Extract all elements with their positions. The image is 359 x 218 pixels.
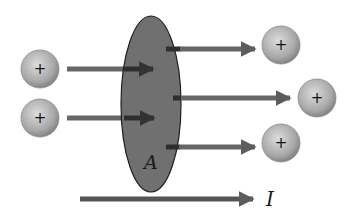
current-label: I xyxy=(265,187,275,211)
charge-right-bottom: + xyxy=(262,124,300,162)
charge-right-middle: + xyxy=(298,79,336,117)
plus-icon: + xyxy=(275,36,288,54)
charge-right-top: + xyxy=(262,26,300,64)
plus-icon: + xyxy=(34,109,47,127)
plus-icon: + xyxy=(275,134,288,152)
charge-left-bottom: + xyxy=(21,99,59,137)
plus-icon: + xyxy=(311,89,324,107)
charge-left-top: + xyxy=(21,50,59,88)
plus-icon: + xyxy=(34,60,47,78)
current-diagram: + + A + + + I xyxy=(0,0,359,218)
area-label: A xyxy=(142,151,158,173)
